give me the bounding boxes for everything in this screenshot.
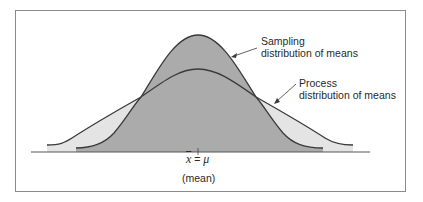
mean-symbol-label: x = μ (186, 152, 209, 167)
process-label: Process distribution of means (299, 77, 396, 101)
sampling-label: Sampling distribution of means (261, 35, 358, 59)
sampling-label-line1: Sampling (261, 35, 358, 47)
sampling-arrowhead (231, 53, 237, 58)
sampling-label-line2: distribution of means (261, 47, 358, 59)
xbar-symbol: x (186, 152, 191, 166)
mean-caption: (mean) (182, 172, 215, 184)
sampling-arrow (234, 48, 257, 56)
equals-sign: = (194, 153, 200, 165)
process-arrow (277, 84, 296, 101)
process-label-line2: distribution of means (299, 89, 396, 101)
process-label-line1: Process (299, 77, 396, 89)
mu-symbol: μ (203, 152, 209, 166)
